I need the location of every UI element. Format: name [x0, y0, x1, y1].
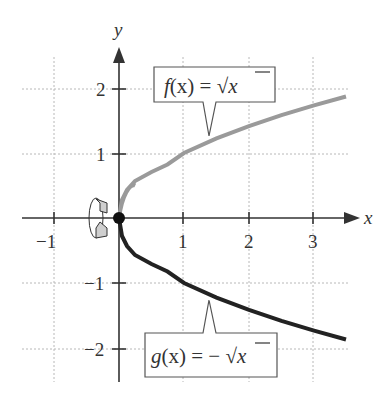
g-sqrt-sign: √	[225, 344, 237, 368]
tick-label-x1: 1	[178, 231, 188, 252]
origin-point	[113, 212, 125, 224]
g-callout-arg: (x) = −	[162, 344, 226, 368]
tick-label-x2: 2	[244, 231, 254, 252]
y-axis-label: y	[112, 19, 123, 40]
f-callout-arg: (x) =	[170, 74, 217, 98]
x-axis-label: x	[363, 207, 373, 228]
y-axis-arrow-icon	[113, 47, 125, 63]
tick-label-x3: 3	[308, 231, 318, 252]
f-callout: f(x) = √x	[154, 67, 275, 136]
f-sqrt-sign: √	[217, 74, 229, 98]
f-curve	[119, 97, 346, 219]
tick-label-ym1: −1	[84, 273, 104, 294]
g-callout-fn: g	[151, 344, 162, 368]
chart-canvas: x y −1 1 2 3 2 1 −1 −2 f(x) = √x g(x) = …	[0, 0, 385, 403]
tick-label-y2: 2	[96, 79, 106, 100]
x-axis-arrow-icon	[344, 212, 360, 224]
tick-label-xm1: −1	[36, 231, 56, 252]
svg-text:f(x) = √x: f(x) = √x	[164, 74, 238, 98]
svg-text:g(x) = − √x: g(x) = − √x	[151, 344, 247, 368]
tick-label-y1: 1	[96, 144, 106, 165]
f-callout-var: x	[227, 74, 238, 98]
tick-label-ym2: −2	[84, 339, 104, 360]
g-callout-var: x	[236, 344, 247, 368]
